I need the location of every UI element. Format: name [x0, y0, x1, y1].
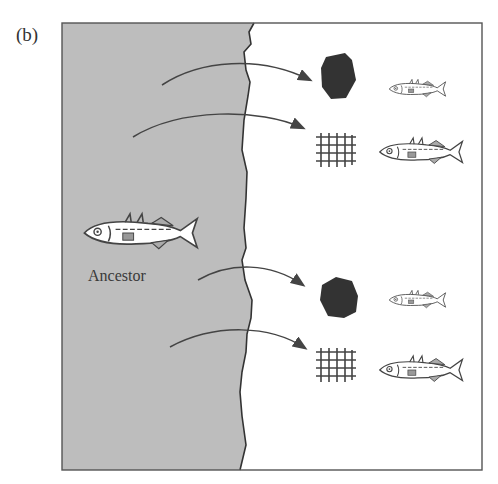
large-fish-icon [380, 356, 463, 382]
large-fish-icon [380, 138, 463, 164]
diagram-canvas [0, 0, 498, 484]
small-fish-icon [389, 79, 445, 96]
grid-vegetation-icon [316, 348, 356, 382]
ancestor-label: Ancestor [88, 267, 146, 285]
small-fish-icon [389, 290, 445, 307]
rock-icon [320, 277, 358, 318]
grid-vegetation-icon [316, 133, 356, 167]
rock-icon [321, 53, 356, 99]
